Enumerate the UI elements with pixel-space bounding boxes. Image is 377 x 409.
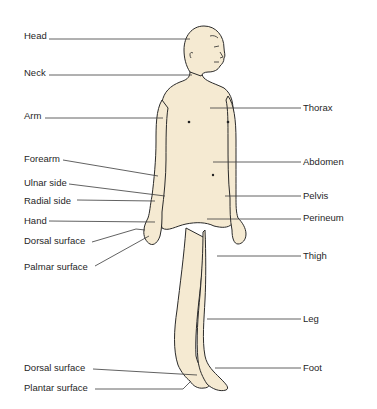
label-thorax: Thorax	[303, 102, 333, 113]
human-figure	[144, 26, 246, 391]
label-pelvis: Pelvis	[303, 190, 328, 201]
label-abdomen: Abdomen	[303, 156, 344, 167]
label-head: Head	[24, 30, 47, 41]
label-foot: Foot	[303, 362, 322, 373]
label-plantar-surface: Plantar surface	[24, 382, 88, 393]
label-ulnar-side: Ulnar side	[24, 177, 67, 188]
label-forearm: Forearm	[24, 153, 60, 164]
label-dorsal-surface-foot: Dorsal surface	[24, 362, 85, 373]
label-hand: Hand	[24, 215, 47, 226]
label-palmar-surface: Palmar surface	[24, 261, 88, 272]
label-radial-side: Radial side	[24, 195, 71, 206]
label-leg: Leg	[303, 313, 319, 324]
label-arm: Arm	[24, 110, 41, 121]
label-perineum: Perineum	[303, 212, 344, 223]
label-neck: Neck	[24, 67, 46, 78]
label-thigh: Thigh	[303, 250, 327, 261]
label-dorsal-surface-hand: Dorsal surface	[24, 235, 85, 246]
